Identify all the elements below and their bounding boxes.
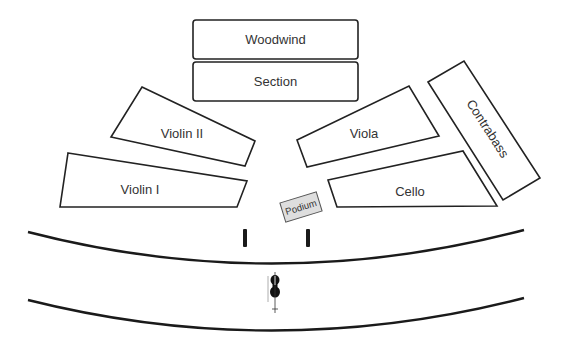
music-stand-right <box>306 229 310 247</box>
viola-label: Viola <box>350 126 379 141</box>
violin-i-label: Violin I <box>121 182 160 197</box>
cello-label: Cello <box>395 184 425 199</box>
section-label: Section <box>254 74 297 89</box>
woodwind-section: Woodwind <box>193 20 358 59</box>
music-stand-left <box>243 229 247 247</box>
orchestra-diagram: Woodwind Section Violin II Violin I Viol… <box>0 0 563 340</box>
stage-edge-lower-arc <box>28 298 524 331</box>
stage-edge-upper-arc <box>28 230 524 264</box>
podium: Podium <box>280 192 322 222</box>
woodwind-label: Woodwind <box>245 32 305 47</box>
violin-ii-label: Violin II <box>161 126 203 141</box>
cello-icon <box>268 272 280 313</box>
cello-section: Cello <box>328 151 497 207</box>
section-box: Section <box>193 62 358 101</box>
